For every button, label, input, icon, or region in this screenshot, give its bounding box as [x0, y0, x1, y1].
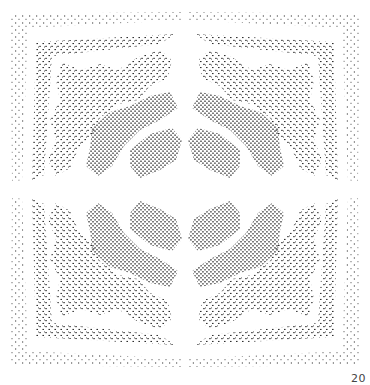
page-number: 20: [351, 372, 366, 385]
quadrant-bottom-left: [10, 197, 182, 367]
quadrant-top-right: [188, 12, 360, 182]
quadrant-bottom-right: [188, 197, 360, 367]
quadrant-top-left: [10, 12, 182, 182]
